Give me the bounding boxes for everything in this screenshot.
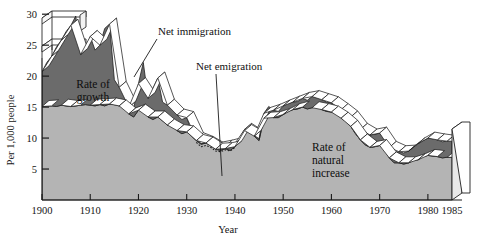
band-label-line-2: natural <box>312 154 344 166</box>
population-growth-chart: 51015202530 1900191019201930194019501960… <box>0 0 480 242</box>
y-axis-title: Per 1,000 people <box>5 94 16 165</box>
annotation-leader-line <box>134 39 157 77</box>
x-tick-label: 1970 <box>369 205 390 216</box>
x-tick-label: 1920 <box>128 205 149 216</box>
x-tick-label: 1940 <box>224 205 245 216</box>
y-tick-label: 25 <box>27 40 38 51</box>
y-tick-label: 5 <box>32 164 37 175</box>
band-label-line-2: growth <box>77 91 110 104</box>
chart-svg: 51015202530 1900191019201930194019501960… <box>0 0 480 242</box>
x-tick-label: 1985 <box>442 205 463 216</box>
annotation-label: Net immigration <box>158 25 232 37</box>
band-label-line-3: increase <box>312 167 350 179</box>
x-axis-title: Year <box>218 224 238 235</box>
y-axis-tick-labels: 51015202530 <box>27 9 38 175</box>
x-tick-label: 1980 <box>417 205 438 216</box>
y-tick-label: 30 <box>27 9 38 20</box>
right-endcap-3d <box>452 122 470 200</box>
band-label-line-1: Rate of <box>76 78 110 90</box>
band-label-rate-of-growth: Rate of growth <box>76 78 110 104</box>
y-tick-label: 20 <box>27 71 38 82</box>
y-tick-label: 15 <box>27 102 38 113</box>
annotation-label: Net emigration <box>196 60 263 72</box>
x-tick-label: 1900 <box>32 205 53 216</box>
x-axis-tick-labels: 1900191019201930194019501960197019801985 <box>32 205 463 216</box>
y-tick-label: 10 <box>27 133 38 144</box>
x-tick-label: 1960 <box>321 205 342 216</box>
x-tick-label: 1950 <box>273 205 294 216</box>
x-tick-label: 1930 <box>176 205 197 216</box>
plot-area <box>42 16 459 200</box>
band-label-line-1: Rate of <box>312 141 346 153</box>
x-tick-label: 1910 <box>80 205 101 216</box>
